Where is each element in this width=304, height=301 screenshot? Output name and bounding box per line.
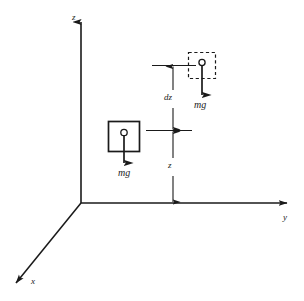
- axis-group: [16, 22, 287, 283]
- initial-block-particle: [121, 129, 127, 135]
- displaced-block-weight-label: mg: [194, 100, 206, 110]
- x-axis-label: x: [31, 277, 35, 286]
- displaced-block-group: [189, 53, 216, 96]
- y-axis-label: y: [283, 213, 287, 222]
- figure-container: z y x dz z mg mg: [0, 0, 304, 301]
- dz-dimension-label: dz: [164, 93, 172, 102]
- initial-block-group: [109, 122, 140, 164]
- x-axis-line: [16, 203, 81, 283]
- coordinate-system-diagram: [0, 0, 304, 301]
- displaced-block-particle: [199, 59, 205, 65]
- z-axis-label: z: [72, 13, 76, 22]
- initial-block-weight-label: mg: [118, 168, 130, 178]
- z-dimension-label: z: [168, 161, 172, 170]
